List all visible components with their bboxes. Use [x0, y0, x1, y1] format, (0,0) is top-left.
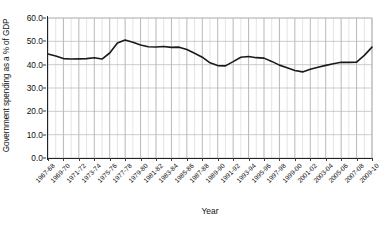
x-tick-mark [233, 158, 234, 161]
x-tick-mark [218, 158, 219, 161]
y-tick-mark [43, 134, 46, 135]
y-tick-label: 40.0 [27, 60, 43, 70]
x-tick-mark [156, 158, 157, 161]
x-tick-mark [264, 158, 265, 161]
x-axis-tick-labels: 1967-681969-701971-721973-741975-761977-… [48, 160, 372, 208]
y-axis-title-label: Government spending as a % of GDP [3, 18, 12, 152]
x-tick-mark [357, 158, 358, 161]
x-tick-mark [279, 158, 280, 161]
y-tick-label: 20.0 [27, 106, 43, 116]
x-tick-mark [141, 158, 142, 161]
x-tick-mark [249, 158, 250, 161]
x-tick-mark [310, 158, 311, 161]
y-tick-mark [43, 18, 46, 19]
x-tick-mark [125, 158, 126, 161]
x-axis-title: Year [48, 206, 372, 216]
x-tick-mark [48, 158, 49, 161]
x-tick-mark [187, 158, 188, 161]
y-tick-mark [43, 88, 46, 89]
y-tick-mark [43, 64, 46, 65]
y-tick-mark [43, 111, 46, 112]
x-tick-mark [295, 158, 296, 161]
y-tick-mark [43, 158, 46, 159]
y-tick-label: 60.0 [27, 13, 43, 23]
y-tick-label: 50.0 [27, 36, 43, 46]
plot-area [48, 18, 372, 158]
x-tick-mark [326, 158, 327, 161]
y-tick-mark [43, 41, 46, 42]
x-tick-mark [79, 158, 80, 161]
x-tick-mark [171, 158, 172, 161]
x-tick-mark [202, 158, 203, 161]
x-tick-mark [94, 158, 95, 161]
y-axis-title: Government spending as a % of GDP [0, 0, 14, 170]
x-tick-mark [341, 158, 342, 161]
y-tick-label: 0.0 [31, 153, 43, 163]
x-tick-mark [63, 158, 64, 161]
y-tick-label: 10.0 [27, 130, 43, 140]
y-axis-tick-labels: 0.010.020.030.040.050.060.0 [14, 0, 46, 225]
x-tick-mark [110, 158, 111, 161]
x-tick-mark [372, 158, 373, 161]
y-tick-label: 30.0 [27, 83, 43, 93]
y-axis-spine [47, 16, 48, 160]
data-series-line [48, 18, 372, 158]
